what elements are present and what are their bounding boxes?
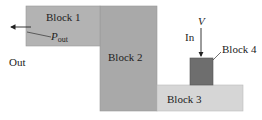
block-2-label: Block 2 — [108, 51, 143, 63]
in-label: In — [185, 31, 195, 43]
block-3-label: Block 3 — [167, 93, 202, 105]
block-4-leader — [213, 52, 221, 60]
block-diagram: Block 1 Block 2 Block 3 Block 4 Out Pout… — [0, 0, 262, 120]
block-1-label: Block 1 — [46, 11, 81, 23]
block-4 — [190, 58, 213, 85]
out-label: Out — [9, 56, 26, 68]
v-label: V — [198, 15, 206, 27]
block-4-label: Block 4 — [222, 43, 257, 55]
